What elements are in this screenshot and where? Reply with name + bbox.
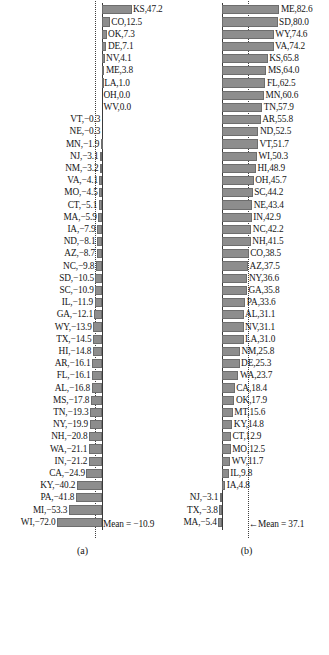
bar-ma xyxy=(218,518,222,527)
bar-label-va: VA,74.2 xyxy=(275,40,305,52)
bar-nm xyxy=(100,164,102,173)
panel-a-mean-label: Mean = −10.9 xyxy=(103,519,154,530)
bar-label-me: ME,82.6 xyxy=(281,3,313,15)
bar-il xyxy=(222,469,229,478)
bar-label-sd: SD,80.0 xyxy=(279,16,309,28)
bar-row: GA,35.8 xyxy=(164,285,329,297)
bar-nv xyxy=(222,322,244,331)
bar-row: VA,−4.1 xyxy=(0,175,165,187)
bar-label-mo: MO,−4.5 xyxy=(64,186,97,198)
bar-label-al: AL,31.1 xyxy=(245,308,275,320)
bar-label-ne: NE,43.4 xyxy=(254,199,284,211)
bar-row: CT,12.9 xyxy=(164,431,329,443)
bar-label-ne: NE,−0.3 xyxy=(70,125,101,137)
bar-az xyxy=(222,261,248,270)
bar-label-mn: MN,60.6 xyxy=(266,89,299,101)
bar-row: WV,11.7 xyxy=(164,455,329,467)
bar-label-va: VA,−4.1 xyxy=(67,174,98,186)
bar-label-ct: CT,−5.1 xyxy=(68,199,98,211)
bar-label-wa: WA,23.7 xyxy=(240,369,272,381)
bar-nd xyxy=(222,127,258,136)
panel-a-bar-rows: KS,47.2CO,12.5OK,7.3DE,7.1NV,4.1ME,3.8LA… xyxy=(0,4,165,529)
bar-label-wy: WY,74.6 xyxy=(275,28,307,40)
bar-ia xyxy=(97,225,102,234)
bar-row: IN,42.9 xyxy=(164,211,329,223)
bar-label-il: IL,9.8 xyxy=(230,467,252,479)
bar-row: KS,47.2 xyxy=(0,4,165,16)
bar-label-nm: NM,25.8 xyxy=(241,345,274,357)
bar-label-in: IN,42.9 xyxy=(253,211,281,223)
bar-label-ia: IA,4.8 xyxy=(227,479,250,491)
bar-row: MS,64.0 xyxy=(164,65,329,77)
bar-label-nd: ND,52.5 xyxy=(260,125,291,137)
bar-ct xyxy=(99,200,102,209)
bar-row: GA,−12.1 xyxy=(0,309,165,321)
bar-label-ca: CA,18.4 xyxy=(236,382,267,394)
bar-in xyxy=(222,213,252,222)
bar-row: NE,43.4 xyxy=(164,199,329,211)
bar-tx xyxy=(93,335,102,344)
bar-pa xyxy=(222,298,245,307)
bar-va xyxy=(99,176,102,185)
bar-row: NY,−19.9 xyxy=(0,419,165,431)
bar-label-mt: MT,15.6 xyxy=(234,406,265,418)
bar-row: TX,−3.8 xyxy=(164,504,329,516)
bar-de xyxy=(222,359,240,368)
bar-row: SD,−10.5 xyxy=(0,272,165,284)
bar-nh xyxy=(222,237,251,246)
bar-wv xyxy=(222,457,230,466)
bar-row: ME,82.6 xyxy=(164,4,329,16)
bar-nc xyxy=(222,225,251,234)
bar-row: CO,12.5 xyxy=(0,16,165,28)
bar-row: AL,−16.8 xyxy=(0,382,165,394)
bar-label-ct: CT,12.9 xyxy=(232,430,261,442)
bar-fl xyxy=(222,78,265,87)
bar-in xyxy=(89,457,102,466)
panel-a-letter: (a) xyxy=(0,545,165,556)
bar-label-ma: MA,−5.9 xyxy=(63,211,96,223)
bar-label-de: DE,25.3 xyxy=(241,357,271,369)
bar-ar xyxy=(92,359,102,368)
bar-row: VT,51.7 xyxy=(164,138,329,150)
bar-row: CT,−5.1 xyxy=(0,199,165,211)
bar-label-nm: NM,−3.2 xyxy=(65,162,98,174)
bar-row: MT,15.6 xyxy=(164,407,329,419)
bar-label-hi: HI,48.9 xyxy=(257,162,285,174)
bar-ia xyxy=(222,481,225,490)
bar-nd xyxy=(97,237,102,246)
bar-mt xyxy=(222,408,233,417)
bar-label-il: IL,−11.9 xyxy=(62,296,93,308)
bar-label-ny: NY,−19.9 xyxy=(53,418,88,430)
figure-caption xyxy=(6,650,323,655)
bar-row: NC,−9.8 xyxy=(0,260,165,272)
bar-row: FL,62.5 xyxy=(164,77,329,89)
bar-row: OH,0.0 xyxy=(0,89,165,101)
bar-row: MA,−5.9 xyxy=(0,211,165,223)
bar-ca xyxy=(86,469,102,478)
bar-row: OH,45.7 xyxy=(164,175,329,187)
bar-label-tn: TN,57.9 xyxy=(264,101,294,113)
bar-ga xyxy=(222,286,247,295)
bar-row: KY,14.8 xyxy=(164,419,329,431)
bar-oh xyxy=(222,176,254,185)
bar-row: TN,57.9 xyxy=(164,102,329,114)
bar-row: ND,−8.1 xyxy=(0,236,165,248)
bar-label-ia: IA,−7.9 xyxy=(67,223,95,235)
bar-label-pa: PA,33.6 xyxy=(247,296,276,308)
bar-row: PA,33.6 xyxy=(164,297,329,309)
bar-row: NJ,−3.1 xyxy=(0,150,165,162)
bar-al xyxy=(92,383,103,392)
bar-label-nh: NH,41.5 xyxy=(252,235,283,247)
bar-row: WI,50.3 xyxy=(164,150,329,162)
bar-row: NV,4.1 xyxy=(0,53,165,65)
panel-b-bar-rows: ME,82.6SD,80.0WY,74.6VA,74.2KS,65.8MS,64… xyxy=(164,4,329,529)
bar-label-ar: AR,−16.1 xyxy=(55,357,91,369)
bar-row: MS,−17.8 xyxy=(0,394,165,406)
bar-label-ms: MS,64.0 xyxy=(268,64,299,76)
bar-label-oh: OH,0.0 xyxy=(104,89,131,101)
bar-sd xyxy=(95,274,102,283)
bar-label-nv: NV,4.1 xyxy=(106,52,131,64)
bar-row: HI,48.9 xyxy=(164,163,329,175)
bar-row: LA,31.0 xyxy=(164,333,329,345)
bar-mn xyxy=(222,91,264,100)
